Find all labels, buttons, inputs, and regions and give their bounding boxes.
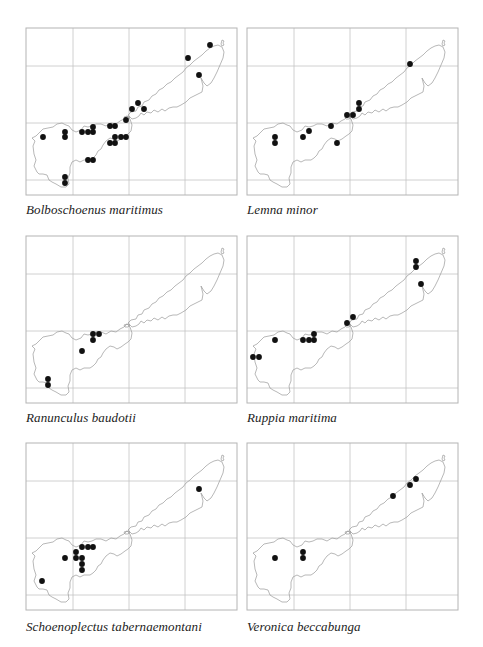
occurrence-dots: [40, 42, 213, 186]
occurrence-dot: [272, 337, 278, 343]
distribution-map-bolboschoenus: [25, 27, 237, 195]
occurrence-dot: [413, 476, 419, 482]
island-outline: [32, 40, 224, 187]
map-grid: [26, 443, 237, 610]
occurrence-dot: [45, 376, 51, 382]
species-caption: Bolboschoenus maritimus: [26, 202, 163, 218]
occurrence-dot: [112, 140, 118, 146]
occurrence-dot: [79, 555, 85, 561]
occurrence-dot: [62, 555, 68, 561]
species-caption: Ruppia maritima: [247, 410, 337, 426]
occurrence-dot: [62, 129, 68, 135]
occurrence-dot: [85, 129, 91, 135]
occurrence-dots: [272, 61, 413, 146]
occurrence-dot: [344, 112, 350, 118]
occurrence-dot: [85, 157, 91, 163]
occurrence-dot: [207, 42, 213, 48]
occurrence-dot: [85, 544, 91, 550]
occurrence-dot: [413, 264, 419, 270]
occurrence-dot: [311, 337, 317, 343]
occurrence-dot: [129, 106, 135, 112]
occurrence-dot: [79, 561, 85, 567]
map-frame: [247, 443, 458, 610]
occurrence-dot: [141, 106, 147, 112]
occurrence-dot: [73, 555, 79, 561]
occurrence-dot: [135, 100, 141, 106]
species-caption: Veronica beccabunga: [247, 619, 361, 635]
occurrence-dots: [250, 258, 424, 360]
occurrence-dot: [79, 544, 85, 550]
map-grid: [26, 236, 237, 403]
occurrence-dot: [311, 331, 317, 337]
occurrence-dot: [250, 354, 256, 360]
occurrence-dot: [90, 337, 96, 343]
occurrence-dot: [96, 331, 102, 337]
occurrence-dot: [90, 544, 96, 550]
species-caption: Schoenoplectus tabernaemontani: [26, 619, 202, 635]
occurrence-dot: [90, 124, 96, 130]
distribution-map-veronica: [246, 442, 458, 610]
map-frame: [26, 443, 237, 610]
occurrence-dot: [272, 140, 278, 146]
distribution-map-ruppia: [246, 235, 458, 403]
occurrence-dot: [300, 555, 306, 561]
occurrence-dot: [112, 134, 118, 140]
occurrence-dot: [272, 555, 278, 561]
occurrence-dots: [39, 486, 202, 584]
occurrence-dot: [107, 140, 113, 146]
occurrence-dot: [90, 331, 96, 337]
occurrence-dot: [90, 157, 96, 163]
occurrence-dot: [73, 549, 79, 555]
occurrence-dot: [356, 106, 362, 112]
occurrence-dot: [344, 320, 350, 326]
map-frame: [26, 236, 237, 403]
occurrence-dot: [45, 382, 51, 388]
occurrence-dot: [62, 174, 68, 180]
occurrence-dot: [39, 578, 45, 584]
occurrence-dot: [79, 567, 85, 573]
occurrence-dot: [112, 123, 118, 129]
occurrence-dot: [418, 281, 424, 287]
map-grid: [247, 443, 458, 610]
occurrence-dot: [107, 123, 113, 129]
occurrence-dot: [62, 134, 68, 140]
occurrence-dot: [407, 61, 413, 67]
occurrence-dot: [407, 482, 413, 488]
map-frame: [247, 28, 458, 195]
occurrence-dot: [390, 493, 396, 499]
species-caption: Ranunculus baudotii: [26, 410, 136, 426]
occurrence-dots: [45, 331, 102, 388]
occurrence-dot: [356, 100, 362, 106]
occurrence-dot: [123, 117, 129, 123]
occurrence-dot: [413, 258, 419, 264]
distribution-map-lemna: [246, 27, 458, 195]
occurrence-dot: [300, 337, 306, 343]
occurrence-dot: [123, 134, 129, 140]
occurrence-dot: [328, 123, 334, 129]
occurrence-dot: [334, 140, 340, 146]
occurrence-dot: [40, 134, 46, 140]
occurrence-dot: [79, 348, 85, 354]
occurrence-dot: [185, 55, 191, 61]
occurrence-dot: [300, 134, 306, 140]
distribution-map-ranunculus: [25, 235, 237, 403]
occurrence-dot: [196, 486, 202, 492]
occurrence-dot: [350, 314, 356, 320]
occurrence-dot: [272, 134, 278, 140]
occurrence-dot: [306, 337, 312, 343]
occurrence-dot: [306, 128, 312, 134]
occurrence-dot: [79, 129, 85, 135]
map-grid: [247, 28, 458, 195]
occurrence-dot: [90, 129, 96, 135]
island-outline: [32, 248, 224, 395]
distribution-map-schoenoplectus: [25, 442, 237, 610]
occurrence-dot: [118, 134, 124, 140]
species-caption: Lemna minor: [247, 202, 318, 218]
occurrence-dot: [300, 549, 306, 555]
occurrence-dot: [256, 354, 262, 360]
island-outline: [32, 455, 224, 602]
occurrence-dot: [196, 72, 202, 78]
occurrence-dot: [350, 112, 356, 118]
occurrence-dot: [62, 180, 68, 186]
